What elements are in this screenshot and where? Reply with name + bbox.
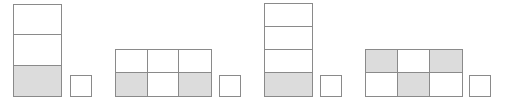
empty-cell [265,50,312,73]
answer-box-1 [70,75,92,97]
answer-box-3 [320,75,342,97]
fraction-grid-1 [13,4,62,97]
empty-cell [116,50,148,73]
fraction-grid-3 [264,3,313,97]
empty-cell [148,50,180,73]
empty-cell [14,5,61,35]
empty-cell [265,27,312,50]
empty-cell [366,73,398,96]
shaded-cell [179,73,211,96]
shaded-cell [398,73,430,96]
fraction-grid-4 [365,49,463,97]
empty-cell [398,50,430,73]
fraction-grid-2 [115,49,212,97]
empty-cell [430,73,462,96]
empty-cell [265,4,312,27]
shaded-cell [265,73,312,96]
empty-cell [179,50,211,73]
shaded-cell [14,66,61,96]
empty-cell [148,73,180,96]
answer-box-4 [469,75,491,97]
answer-box-2 [219,75,241,97]
shaded-cell [430,50,462,73]
shaded-cell [116,73,148,96]
empty-cell [14,35,61,65]
shaded-cell [366,50,398,73]
